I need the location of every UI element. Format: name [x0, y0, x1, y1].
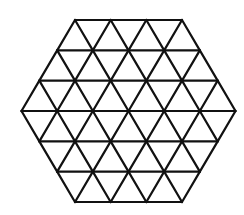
triangulated-hexagon — [0, 0, 244, 215]
diagonal-line-left — [111, 172, 129, 202]
diagonal-line-left — [182, 111, 200, 141]
diagonal-line-right — [57, 172, 75, 202]
diagonal-line-right — [22, 111, 40, 141]
diagonal-line-right — [146, 81, 164, 111]
diagonal-line-right — [39, 81, 57, 111]
diagonal-line-right — [111, 20, 129, 50]
diagonal-line-left — [57, 141, 75, 171]
diagonal-line-left — [57, 20, 75, 50]
diagonal-line-right — [218, 81, 236, 111]
diagonal-line-right — [57, 50, 75, 80]
diagonal-line-right — [129, 50, 147, 80]
diagonal-line-left — [218, 111, 236, 141]
diagonal-line-left — [93, 20, 111, 50]
grid-lines — [22, 20, 236, 202]
diagonal-line-right — [200, 111, 218, 141]
diagonal-line-left — [146, 50, 164, 80]
diagonal-line-left — [75, 50, 93, 80]
diagonal-line-right — [146, 20, 164, 50]
diagonal-line-left — [93, 81, 111, 111]
diagonal-line-left — [164, 141, 182, 171]
diagonal-line-right — [182, 20, 200, 50]
diagonal-line-left — [57, 81, 75, 111]
diagonal-line-right — [111, 141, 129, 171]
diagonal-line-right — [111, 81, 129, 111]
diagonal-line-left — [182, 172, 200, 202]
diagonal-line-left — [182, 50, 200, 80]
diagonal-line-left — [129, 20, 147, 50]
diagonal-line-left — [129, 81, 147, 111]
diagonal-line-right — [75, 81, 93, 111]
diagram-canvas — [0, 0, 244, 215]
diagonal-line-left — [164, 20, 182, 50]
diagonal-line-left — [39, 111, 57, 141]
diagonal-line-right — [75, 141, 93, 171]
diagonal-line-right — [57, 111, 75, 141]
diagonal-line-left — [75, 172, 93, 202]
diagonal-line-right — [93, 172, 111, 202]
diagonal-line-right — [182, 141, 200, 171]
diagonal-line-right — [93, 111, 111, 141]
diagonal-line-right — [182, 81, 200, 111]
diagonal-line-right — [75, 20, 93, 50]
diagonal-line-left — [93, 141, 111, 171]
diagonal-line-right — [164, 111, 182, 141]
diagonal-line-left — [111, 111, 129, 141]
diagonal-line-left — [200, 141, 218, 171]
diagonal-line-left — [129, 141, 147, 171]
diagonal-line-right — [129, 172, 147, 202]
diagonal-line-right — [164, 172, 182, 202]
diagonal-line-left — [39, 50, 57, 80]
diagonal-line-left — [146, 111, 164, 141]
diagonal-line-left — [75, 111, 93, 141]
diagonal-line-right — [200, 50, 218, 80]
diagonal-line-right — [93, 50, 111, 80]
diagonal-line-right — [146, 141, 164, 171]
diagonal-line-left — [164, 81, 182, 111]
diagonal-line-left — [111, 50, 129, 80]
diagonal-line-right — [129, 111, 147, 141]
diagonal-line-left — [200, 81, 218, 111]
diagonal-line-left — [22, 81, 40, 111]
diagonal-line-right — [164, 50, 182, 80]
diagonal-line-left — [146, 172, 164, 202]
diagonal-line-right — [39, 141, 57, 171]
